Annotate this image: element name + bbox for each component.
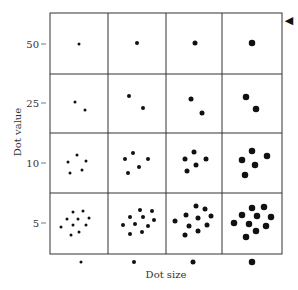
dot xyxy=(78,43,81,46)
dot xyxy=(173,219,178,224)
dot xyxy=(152,218,156,222)
dot xyxy=(140,230,144,234)
dot xyxy=(239,212,246,219)
dot xyxy=(263,223,270,230)
x-axis-title: Dot size xyxy=(146,269,187,280)
dot xyxy=(78,231,81,234)
dot xyxy=(203,207,208,212)
grid-lines xyxy=(50,13,282,254)
dot xyxy=(185,169,190,174)
dot-size-legend-marker xyxy=(249,259,256,266)
dot xyxy=(128,232,132,236)
dot xyxy=(187,224,192,229)
dot xyxy=(239,157,246,164)
dot xyxy=(189,97,194,102)
dot xyxy=(243,94,250,101)
dot xyxy=(127,94,131,98)
dot xyxy=(150,209,154,213)
dot xyxy=(196,229,201,234)
pointer-arrow-icon: ◀ xyxy=(285,14,294,27)
dots-layer xyxy=(60,40,275,241)
dot xyxy=(128,215,132,219)
y-tick-label: 10 xyxy=(26,158,39,169)
dot xyxy=(141,106,145,110)
dot xyxy=(252,162,259,169)
y-tick-label: 5 xyxy=(33,218,39,229)
dot xyxy=(192,150,197,155)
dot xyxy=(264,153,271,160)
dot xyxy=(84,109,87,112)
dot xyxy=(72,224,75,227)
dot xyxy=(254,213,261,220)
dot xyxy=(205,223,210,228)
dot xyxy=(249,205,256,212)
dot xyxy=(121,223,125,227)
dot xyxy=(85,160,88,163)
y-axis-ticks xyxy=(41,44,46,223)
dot xyxy=(141,215,145,219)
dot xyxy=(81,169,84,172)
dot xyxy=(204,157,209,162)
dot xyxy=(77,218,80,221)
dot xyxy=(243,234,250,241)
y-axis-tick-labels: 50 25 10 5 xyxy=(26,39,39,229)
dot xyxy=(85,224,88,227)
dot xyxy=(66,218,69,221)
dot xyxy=(246,221,253,228)
dot xyxy=(88,217,91,220)
dot-size-legend-marker xyxy=(80,261,83,264)
dot xyxy=(76,154,79,157)
dot xyxy=(249,148,256,155)
dot xyxy=(209,214,214,219)
dot xyxy=(231,220,238,227)
dot xyxy=(193,41,198,46)
dot xyxy=(135,41,139,45)
dot xyxy=(67,161,70,164)
dot xyxy=(253,228,260,235)
dot xyxy=(138,208,142,212)
dot xyxy=(268,214,275,221)
dot-grid-figure: 50 25 10 5 Dot value Dot size ◀ xyxy=(0,0,298,290)
dot xyxy=(131,151,135,155)
y-tick-label: 50 xyxy=(26,39,39,50)
dot xyxy=(82,210,85,213)
dot xyxy=(249,40,256,47)
dot xyxy=(146,224,150,228)
dot xyxy=(74,101,77,104)
dot xyxy=(137,165,141,169)
dot xyxy=(146,157,150,161)
dot xyxy=(183,233,188,238)
dot xyxy=(253,106,260,113)
dot xyxy=(242,172,249,179)
dot xyxy=(133,222,137,226)
y-tick-label: 25 xyxy=(26,98,39,109)
dot xyxy=(69,172,72,175)
dot xyxy=(70,234,73,237)
dot xyxy=(200,111,205,116)
y-axis-title: Dot value xyxy=(12,108,23,156)
dot xyxy=(60,226,63,229)
dot xyxy=(184,213,189,218)
dot-size-legend-marker xyxy=(191,260,196,265)
dot xyxy=(126,171,130,175)
dot xyxy=(72,211,75,214)
dot xyxy=(183,157,188,162)
dot-size-legend-marker xyxy=(132,260,136,264)
dot-size-legend xyxy=(80,259,256,266)
dot xyxy=(196,216,201,221)
dot xyxy=(123,157,127,161)
dot xyxy=(261,204,268,211)
dot xyxy=(194,163,199,168)
dot xyxy=(194,204,199,209)
